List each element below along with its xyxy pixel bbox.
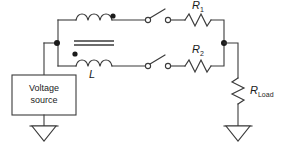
resistor-load-label-group: RLoad — [250, 84, 274, 98]
polarity-dot-bottom — [72, 51, 77, 56]
resistor-load-symbol — [232, 78, 244, 104]
circuit-diagram: Voltage source L — [0, 0, 282, 145]
resistor-2-label: R2 — [192, 43, 204, 57]
ground-left-icon — [30, 126, 58, 141]
switch-2-terminal-right[interactable] — [165, 63, 170, 68]
polarity-dot-top — [110, 13, 115, 18]
voltage-source-label-line1: Voltage — [29, 83, 59, 93]
switch-2[interactable] — [145, 55, 170, 69]
node-left-junction-dot — [54, 40, 60, 46]
wire-r2-to-node-right — [211, 43, 224, 66]
resistor-2-label-group: R2 — [192, 43, 204, 57]
resistor-2-symbol — [185, 60, 211, 72]
wire-node-to-rload — [224, 43, 238, 78]
resistor-load-label: RLoad — [250, 84, 274, 98]
schematic-canvas: Voltage source L — [0, 0, 282, 145]
resistor-1-label: R1 — [192, 0, 204, 13]
switch-2-blade[interactable] — [150, 55, 165, 64]
voltage-source-label-line2: source — [30, 95, 57, 105]
switch-1-terminal-right[interactable] — [165, 17, 170, 22]
resistor-1-symbol — [185, 14, 211, 26]
inductor-label: L — [89, 68, 95, 80]
ground-right-icon — [224, 126, 252, 141]
switch-1[interactable] — [145, 9, 170, 23]
resistor-1-label-group: R1 — [192, 0, 204, 13]
inductor-bottom-winding — [76, 60, 112, 66]
switch-1-blade[interactable] — [150, 9, 165, 18]
inductor-top-winding — [76, 14, 112, 20]
wire-r1-to-node-right — [211, 20, 224, 43]
